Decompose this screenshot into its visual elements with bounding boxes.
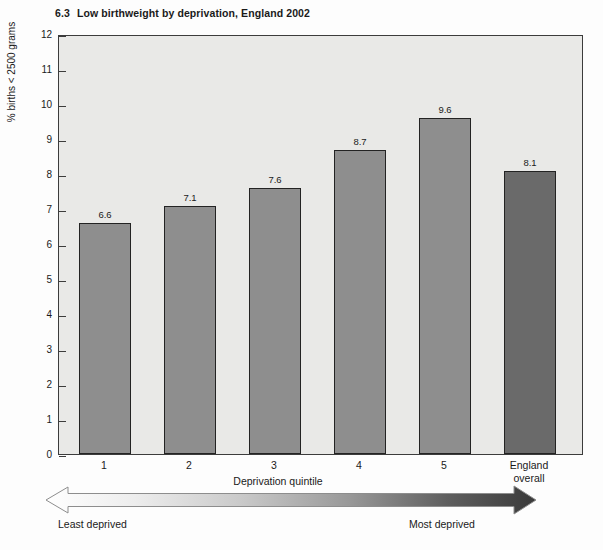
x-axis-tick-label: 3 xyxy=(236,459,312,472)
x-axis-tick-label: 4 xyxy=(321,459,397,472)
y-axis-tick xyxy=(59,176,66,177)
plot-inner: 6.67.17.68.79.68.1 xyxy=(59,36,582,454)
figure-number: 6.3 xyxy=(55,7,70,19)
y-axis-tick xyxy=(59,351,66,352)
x-axis-tick-label: 2 xyxy=(151,459,227,472)
y-axis-tick-label: 5 xyxy=(24,275,52,285)
bar-value-label: 8.7 xyxy=(353,136,366,147)
bar-value-label: 8.1 xyxy=(523,157,536,168)
x-axis-tick-label: Englandoverall xyxy=(491,459,567,484)
y-axis-tick-label: 1 xyxy=(24,415,52,425)
x-axis-tick-label: 1 xyxy=(66,459,142,472)
arrow-label-most-deprived: Most deprived xyxy=(409,518,475,530)
y-axis-tick xyxy=(59,456,66,457)
bar: 9.6 xyxy=(419,118,471,454)
y-axis-tick xyxy=(59,246,66,247)
deprivation-gradient-arrow xyxy=(46,484,536,516)
y-axis-tick-label: 2 xyxy=(24,380,52,390)
y-axis-tick-label: 11 xyxy=(24,65,52,75)
x-axis-tick-label: 5 xyxy=(406,459,482,472)
y-axis-tick xyxy=(59,211,66,212)
y-axis-tick-label: 8 xyxy=(24,170,52,180)
y-axis-tick xyxy=(59,71,66,72)
y-axis-tick xyxy=(59,106,66,107)
y-axis-tick-label: 4 xyxy=(24,310,52,320)
y-axis-title: % births < 2500 grams xyxy=(6,0,17,172)
y-axis-tick xyxy=(59,386,66,387)
y-axis-tick xyxy=(59,281,66,282)
arrow-shape xyxy=(46,486,536,514)
figure-panel: 6.3Low birthweight by deprivation, Engla… xyxy=(0,0,603,550)
bar: 8.7 xyxy=(334,150,386,455)
arrow-label-least-deprived: Least deprived xyxy=(58,518,127,530)
y-axis-tick-label: 3 xyxy=(24,345,52,355)
y-axis-tick-label: 12 xyxy=(24,30,52,40)
chart-title: 6.3Low birthweight by deprivation, Engla… xyxy=(55,7,310,19)
bar: 6.6 xyxy=(79,223,131,454)
y-axis-tick xyxy=(59,141,66,142)
y-axis-tick-label: 10 xyxy=(24,100,52,110)
y-axis-tick-label: 7 xyxy=(24,205,52,215)
y-axis-tick xyxy=(59,316,66,317)
figure-title-text: Low birthweight by deprivation, England … xyxy=(77,7,310,19)
bar-value-label: 7.6 xyxy=(268,174,281,185)
bar-value-label: 7.1 xyxy=(183,192,196,203)
bar: 8.1 xyxy=(504,171,556,455)
y-axis-tick xyxy=(59,36,66,37)
y-axis-tick xyxy=(59,421,66,422)
y-axis-tick-label: 9 xyxy=(24,135,52,145)
bar: 7.1 xyxy=(164,206,216,455)
y-axis-tick-label: 6 xyxy=(24,240,52,250)
y-axis-tick-label: 0 xyxy=(24,450,52,460)
bar-value-label: 9.6 xyxy=(438,104,451,115)
plot-area: 6.67.17.68.79.68.1 xyxy=(58,35,583,455)
bar: 7.6 xyxy=(249,188,301,454)
bar-value-label: 6.6 xyxy=(98,209,111,220)
